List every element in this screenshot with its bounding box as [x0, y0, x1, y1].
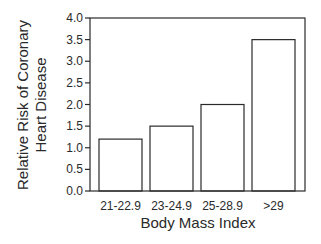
y-tick-label: 2.0	[66, 98, 83, 112]
x-category-label: >29	[263, 199, 284, 213]
y-tick-label: 3.5	[66, 33, 83, 47]
y-tick-label: 1.5	[66, 119, 83, 133]
y-axis-title: Relative Risk of CoronaryHeart Disease	[14, 19, 49, 190]
y-tick-label: 1.0	[66, 141, 83, 155]
y-tick-label: 3.0	[66, 54, 83, 68]
y-axis-title-line: Heart Disease	[32, 57, 49, 152]
y-tick-label: 0.5	[66, 162, 83, 176]
bar-21229	[99, 139, 142, 191]
x-category-label: 25-28.9	[202, 199, 243, 213]
bars	[99, 40, 295, 191]
y-axis-title-line: Relative Risk of Coronary	[14, 19, 31, 190]
y-tick-label: 0.0	[66, 184, 83, 198]
bar-23249	[150, 126, 193, 191]
x-category-label: 23-24.9	[151, 199, 192, 213]
bar-chart: 0.00.51.01.52.02.53.03.54.0 21-22.923-24…	[0, 0, 321, 244]
x-category-label: 21-22.9	[100, 199, 141, 213]
y-tick-label: 2.5	[66, 76, 83, 90]
x-axis-labels: 21-22.923-24.925-28.9>29	[100, 199, 284, 213]
x-axis-title: Body Mass Index	[140, 214, 256, 231]
y-axis-ticks: 0.00.51.01.52.02.53.03.54.0	[66, 11, 90, 198]
y-tick-label: 4.0	[66, 11, 83, 25]
bar-29	[252, 40, 295, 191]
bar-25289	[201, 105, 244, 192]
